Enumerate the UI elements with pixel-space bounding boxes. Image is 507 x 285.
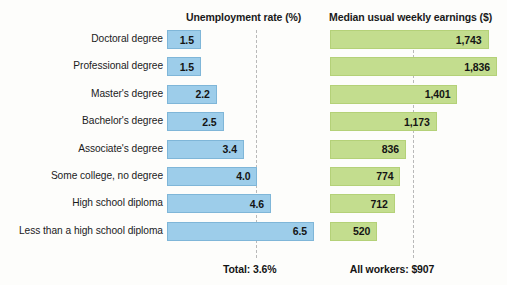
chart-row: Less than a high school diploma6.5520	[0, 222, 507, 249]
chart-row: Doctoral degree1.51,743	[0, 30, 507, 57]
column-header-median-weekly-earnings: Median usual weekly earnings ($)	[329, 11, 492, 23]
unemployment-rate-value: 1.5	[180, 61, 200, 73]
column-header-unemployment-rate: Unemployment rate (%)	[186, 11, 301, 23]
unemployment-rate-value: 2.5	[202, 116, 222, 128]
category-label: Bachelor's degree	[82, 115, 163, 126]
chart-row: Associate's degree3.4836	[0, 140, 507, 167]
weekly-earnings-value: 1,401	[425, 88, 457, 100]
unemployment-rate-bar: 2.5	[167, 112, 224, 131]
chart-row: Professional degree1.51,836	[0, 57, 507, 84]
unemployment-rate-bar: 3.4	[167, 140, 244, 159]
weekly-earnings-value: 1,173	[404, 116, 436, 128]
footer-all-workers-earnings: All workers: $907	[350, 263, 435, 275]
unemployment-rate-value: 3.4	[223, 143, 243, 155]
unemployment-rate-value: 4.0	[236, 170, 256, 182]
unemployment-rate-bar: 2.2	[167, 85, 217, 104]
category-label: Doctoral degree	[91, 33, 163, 44]
category-label: Less than a high school diploma	[19, 225, 163, 236]
weekly-earnings-value: 712	[371, 198, 394, 210]
weekly-earnings-bar: 520	[330, 222, 377, 241]
category-label: High school diploma	[72, 197, 163, 208]
chart-rows: Doctoral degree1.51,743Professional degr…	[0, 30, 507, 249]
weekly-earnings-bar: 1,401	[330, 85, 457, 104]
unemployment-rate-value: 2.2	[195, 88, 215, 100]
category-label: Some college, no degree	[51, 170, 163, 181]
weekly-earnings-value: 520	[353, 225, 376, 237]
unemployment-rate-bar: 6.5	[167, 222, 314, 241]
category-label: Master's degree	[91, 88, 163, 99]
unemployment-rate-bar: 4.6	[167, 194, 271, 213]
unemployment-rate-value: 4.6	[250, 198, 270, 210]
chart-row: Master's degree2.21,401	[0, 85, 507, 112]
chart-row: High school diploma4.6712	[0, 194, 507, 221]
unemployment-rate-bar: 4.0	[167, 167, 257, 186]
weekly-earnings-value: 1,836	[464, 61, 496, 73]
category-label: Professional degree	[73, 60, 163, 71]
weekly-earnings-bar: 1,743	[330, 30, 489, 49]
weekly-earnings-value: 836	[382, 143, 405, 155]
chart-row: Some college, no degree4.0774	[0, 167, 507, 194]
category-label: Associate's degree	[78, 143, 163, 154]
unemployment-rate-value: 1.5	[180, 34, 200, 46]
footer-total-unemployment: Total: 3.6%	[223, 263, 277, 275]
weekly-earnings-bar: 1,173	[330, 112, 437, 131]
weekly-earnings-value: 774	[376, 170, 399, 182]
weekly-earnings-value: 1,743	[456, 34, 488, 46]
chart-container: Unemployment rate (%) Median usual weekl…	[0, 0, 507, 285]
unemployment-rate-value: 6.5	[293, 225, 313, 237]
weekly-earnings-bar: 836	[330, 140, 406, 159]
unemployment-rate-bar: 1.5	[167, 57, 201, 76]
weekly-earnings-bar: 712	[330, 194, 395, 213]
weekly-earnings-bar: 1,836	[330, 57, 497, 76]
chart-row: Bachelor's degree2.51,173	[0, 112, 507, 139]
unemployment-rate-bar: 1.5	[167, 30, 201, 49]
weekly-earnings-bar: 774	[330, 167, 400, 186]
